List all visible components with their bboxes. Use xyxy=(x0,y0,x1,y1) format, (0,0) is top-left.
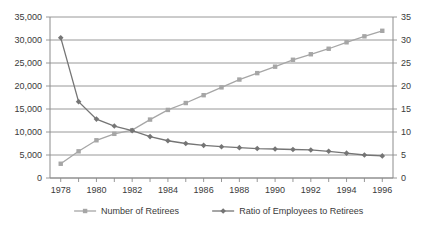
data-point-marker xyxy=(362,34,366,38)
data-point-marker xyxy=(219,85,223,89)
right-axis-tick-label: 10 xyxy=(401,127,411,137)
data-point-marker xyxy=(291,58,295,62)
data-point-marker xyxy=(94,138,98,142)
left-axis-tick-label: 30,000 xyxy=(14,35,42,45)
x-axis-tick-label: 1992 xyxy=(301,185,321,195)
left-axis-tick-label: 25,000 xyxy=(14,58,42,68)
left-axis-tick-label: 20,000 xyxy=(14,81,42,91)
x-axis-tick-label: 1996 xyxy=(372,185,392,195)
x-axis-tick-label: 1990 xyxy=(265,185,285,195)
data-point-marker xyxy=(309,52,313,56)
chart-background xyxy=(0,0,440,230)
x-axis-tick-label: 1988 xyxy=(229,185,249,195)
data-point-marker xyxy=(237,77,241,81)
x-axis-tick-label: 1978 xyxy=(51,185,71,195)
x-axis-tick-label: 1984 xyxy=(158,185,178,195)
data-point-marker xyxy=(59,162,63,166)
legend-item-label: Number of Retirees xyxy=(101,206,180,216)
left-axis-tick-label: 15,000 xyxy=(14,104,42,114)
x-axis-tick-label: 1982 xyxy=(122,185,142,195)
legend-marker-icon xyxy=(83,209,87,213)
right-axis-tick-label: 30 xyxy=(401,35,411,45)
chart-container: 05,00010,00015,00020,00025,00030,00035,0… xyxy=(0,0,440,230)
legend-item-label: Ratio of Employees to Retirees xyxy=(239,206,364,216)
data-point-marker xyxy=(326,47,330,51)
right-axis-tick-label: 0 xyxy=(401,173,406,183)
data-point-marker xyxy=(76,149,80,153)
data-point-marker xyxy=(255,71,259,75)
retirees-ratio-line-chart: 05,00010,00015,00020,00025,00030,00035,0… xyxy=(0,0,440,230)
data-point-marker xyxy=(273,64,277,68)
right-axis-tick-label: 35 xyxy=(401,12,411,22)
data-point-marker xyxy=(344,40,348,44)
x-axis-tick-label: 1980 xyxy=(86,185,106,195)
data-point-marker xyxy=(112,132,116,136)
data-point-marker xyxy=(380,29,384,33)
left-axis-tick-label: 35,000 xyxy=(14,12,42,22)
data-point-marker xyxy=(201,93,205,97)
left-axis-tick-label: 5,000 xyxy=(19,150,42,160)
data-point-marker xyxy=(184,101,188,105)
right-axis-tick-label: 5 xyxy=(401,150,406,160)
right-axis-tick-label: 15 xyxy=(401,104,411,114)
x-axis-tick-label: 1994 xyxy=(337,185,357,195)
right-axis-tick-label: 25 xyxy=(401,58,411,68)
data-point-marker xyxy=(148,117,152,121)
right-axis-tick-label: 20 xyxy=(401,81,411,91)
x-axis-tick-label: 1986 xyxy=(194,185,214,195)
left-axis-tick-label: 0 xyxy=(37,173,42,183)
left-axis-tick-label: 10,000 xyxy=(14,127,42,137)
data-point-marker xyxy=(166,108,170,112)
